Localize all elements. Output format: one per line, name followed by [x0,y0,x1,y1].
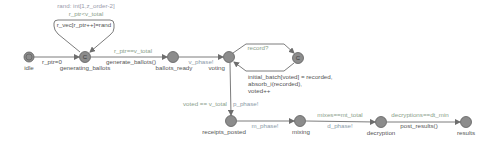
select-label: rand: int[1,z_order-2] [57,2,115,9]
location-mixing[interactable] [295,116,306,127]
location-receipts-posted[interactable] [226,116,237,127]
committed-marker: C [296,55,301,61]
sync-label: p_phase! [233,100,259,107]
sync-label: m_phase! [251,122,278,129]
location-name: generating_ballots [60,64,111,71]
guard-label: r_ptr==v_total [114,47,152,54]
update-label: voted++ [248,87,271,94]
location-name: ballots_ready [156,64,194,71]
update-label: r_vec[r_ptr++]=rand [57,21,112,28]
location-idle[interactable] [24,52,34,62]
location-name: decryption [367,129,396,136]
update-label: generate_ballots() [106,58,156,65]
guard-label: mixes==mt_total [317,111,362,118]
update-label: initial_batch[voted] = recorded, [248,73,333,80]
committed-marker: C [83,54,88,60]
update-label: r_ptr=0 [42,58,62,65]
sync-label: d_phase! [327,122,353,129]
sync-label: record? [248,44,270,51]
location-ballots-ready[interactable] [168,52,179,63]
location-decryption[interactable] [376,117,387,128]
location-generating-ballots[interactable]: C [80,52,91,63]
location-name: receipts_posted [202,128,246,135]
automaton-diagram: C C idle generating_ballots ballots_read… [0,0,494,145]
edge-voting-receipts[interactable] [230,63,231,115]
guard-label: voted == v_total [183,100,227,107]
location-name: results [457,129,475,136]
location-name: voting [208,64,225,71]
location-name: idle [24,64,34,71]
update-label: post_results() [400,122,437,129]
location-results[interactable] [461,117,472,128]
edge-record-voting[interactable] [234,62,294,71]
location-voting-commit[interactable]: C [293,53,304,64]
sync-label: v_phase! [188,58,213,65]
update-label: absorb_i(recorded), [248,80,302,87]
guard-label: r_ptr<v_total [69,10,104,17]
location-voting[interactable] [224,52,235,63]
location-name: mixing [292,128,310,135]
guard-label: decryptions==dt_min [391,111,449,118]
